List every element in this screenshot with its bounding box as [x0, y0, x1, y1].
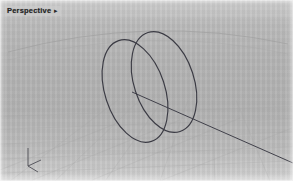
viewport-label[interactable]: Perspective ▸	[5, 6, 61, 16]
axis-x-icon	[28, 160, 41, 166]
scene-wireframe[interactable]	[0, 0, 293, 181]
axis-indicator[interactable]	[28, 148, 41, 172]
horizon-arc-secondary	[8, 40, 288, 60]
axis-z-icon	[28, 166, 38, 172]
viewport-panel[interactable]: Perspective ▸	[0, 0, 293, 181]
chevron-down-icon[interactable]: ▸	[54, 7, 58, 14]
horizon-arc	[8, 31, 288, 52]
ground-grid	[0, 100, 293, 181]
viewport-label-text: Perspective	[7, 7, 51, 15]
